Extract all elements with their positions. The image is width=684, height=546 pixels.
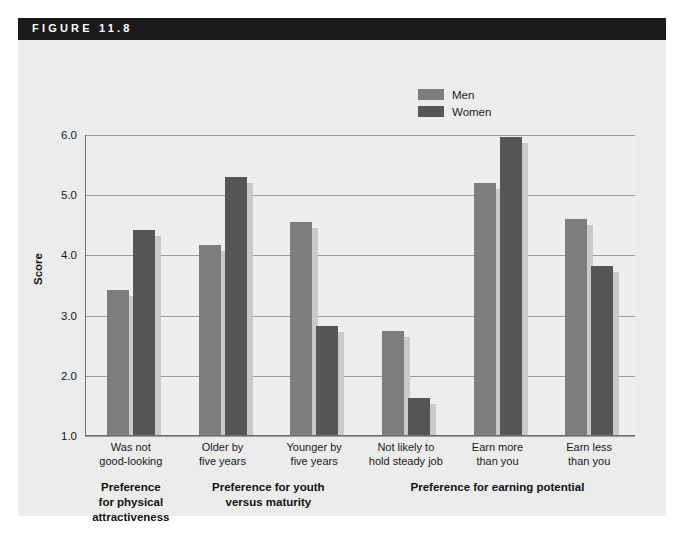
bar-face	[591, 266, 613, 436]
y-tick-label: 2.0	[61, 370, 77, 382]
gridline	[85, 436, 635, 437]
bar-shadow	[155, 236, 161, 436]
legend-label: Men	[452, 89, 474, 101]
bar-shadow	[613, 272, 619, 436]
chart-canvas: MenWomen Score 1.02.03.04.05.06.0 Was no…	[18, 40, 666, 516]
y-tick-label: 4.0	[61, 249, 77, 261]
category-label-line: Earn less	[531, 440, 647, 454]
category-label: Earn lessthan you	[531, 440, 647, 468]
category-label-line: than you	[531, 454, 647, 468]
group-label: Preference for earning potential	[340, 480, 655, 495]
group-label-line: attractiveness	[65, 510, 197, 525]
bar-face	[225, 177, 247, 436]
bar-shadow	[522, 143, 528, 436]
bar-women	[500, 137, 522, 436]
legend-item: Women	[418, 103, 491, 120]
bar-men	[199, 245, 221, 436]
bar-shadow	[430, 404, 436, 436]
bar-women	[225, 177, 247, 436]
gridline	[85, 316, 635, 317]
bar-face	[500, 137, 522, 436]
y-axis-tick-labels: 1.02.03.04.05.06.0	[18, 135, 85, 436]
bar-face	[316, 326, 338, 436]
bar-shadow	[247, 183, 253, 436]
bar-men	[565, 219, 587, 436]
gridline	[85, 255, 635, 256]
figure-card: FIGURE 11.8 MenWomen Score 1.02.03.04.05…	[18, 18, 666, 516]
y-tick-label: 6.0	[61, 129, 77, 141]
plot-background	[85, 135, 635, 436]
bar-face	[107, 290, 129, 436]
bar-face	[133, 230, 155, 436]
bar-face	[474, 183, 496, 436]
bar-shadow	[338, 332, 344, 436]
bar-women	[591, 266, 613, 436]
bar-face	[199, 245, 221, 436]
group-label-line: versus maturity	[157, 495, 380, 510]
legend-item: Men	[418, 86, 491, 103]
bar-face	[382, 331, 404, 436]
plot-area	[85, 135, 635, 436]
y-axis-line	[85, 135, 86, 436]
y-tick-label: 3.0	[61, 310, 77, 322]
legend-swatch-men	[418, 89, 444, 100]
bar-face	[565, 219, 587, 436]
chart-legend: MenWomen	[418, 86, 491, 120]
legend-label: Women	[452, 106, 491, 118]
bar-face	[290, 222, 312, 436]
group-label-line: Preference for earning potential	[340, 480, 655, 495]
bar-men	[382, 331, 404, 436]
bar-women	[133, 230, 155, 436]
y-tick-label: 5.0	[61, 189, 77, 201]
figure-number-label: FIGURE 11.8	[32, 22, 133, 34]
bar-men	[290, 222, 312, 436]
gridline	[85, 195, 635, 196]
bar-women	[316, 326, 338, 436]
gridline	[85, 135, 635, 136]
bar-women	[408, 398, 430, 436]
bar-face	[408, 398, 430, 436]
x-axis-line	[85, 435, 635, 436]
figure-header-bar: FIGURE 11.8	[18, 18, 666, 40]
gridline	[85, 376, 635, 377]
legend-swatch-women	[418, 106, 444, 117]
bar-men	[107, 290, 129, 436]
bar-men	[474, 183, 496, 436]
